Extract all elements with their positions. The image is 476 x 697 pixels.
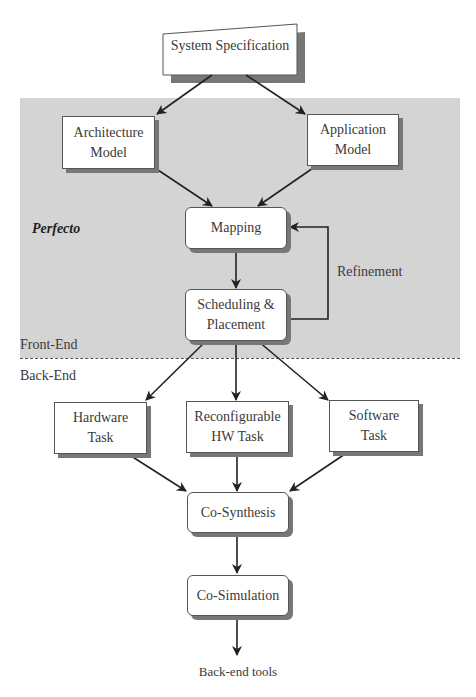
node-application-model: Application Model [307, 114, 399, 166]
app-line2: Model [320, 140, 386, 160]
node-system-specification: System Specification [170, 38, 290, 54]
front-end-label: Front-End [20, 337, 78, 353]
arch-line1: Architecture [74, 123, 144, 143]
back-end-label: Back-End [20, 368, 76, 384]
node-co-synthesis: Co-Synthesis [187, 492, 289, 533]
sw-line2: Task [349, 426, 400, 446]
node-co-simulation: Co-Simulation [187, 575, 289, 616]
rhw-line1: Reconfigurable [194, 407, 280, 427]
front-back-divider [20, 358, 460, 359]
node-architecture-model: Architecture Model [62, 116, 155, 169]
perfecto-label: Perfecto [32, 221, 80, 237]
node-mapping: Mapping [185, 207, 287, 249]
mapping-label: Mapping [211, 218, 262, 238]
cosim-label: Co-Simulation [197, 586, 279, 606]
hw-line2: Task [73, 428, 128, 448]
node-scheduling-placement: Scheduling & Placement [185, 289, 287, 341]
sched-line2: Placement [197, 315, 274, 335]
hw-line1: Hardware [73, 408, 128, 428]
refinement-label: Refinement [337, 264, 402, 280]
rhw-line2: HW Task [194, 427, 280, 447]
back-end-tools-label: Back-end tools [187, 664, 289, 680]
node-hardware-task: Hardware Task [54, 402, 147, 454]
node-software-task: Software Task [329, 400, 419, 452]
node-reconfigurable-hw-task: Reconfigurable HW Task [186, 401, 289, 453]
cosyn-label: Co-Synthesis [201, 503, 276, 523]
arch-line2: Model [74, 143, 144, 163]
sw-line1: Software [349, 406, 400, 426]
sched-line1: Scheduling & [197, 295, 274, 315]
app-line1: Application [320, 120, 386, 140]
